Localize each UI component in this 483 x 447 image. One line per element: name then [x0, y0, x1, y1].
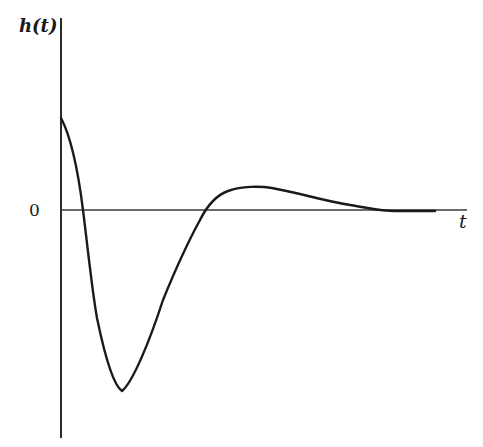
impulse-response-chart: h(t) 0 t: [0, 0, 483, 447]
response-curve: [61, 118, 435, 391]
x-axis-label: t: [459, 210, 467, 232]
origin-label: 0: [29, 200, 40, 220]
y-axis-label: h(t): [19, 15, 57, 36]
